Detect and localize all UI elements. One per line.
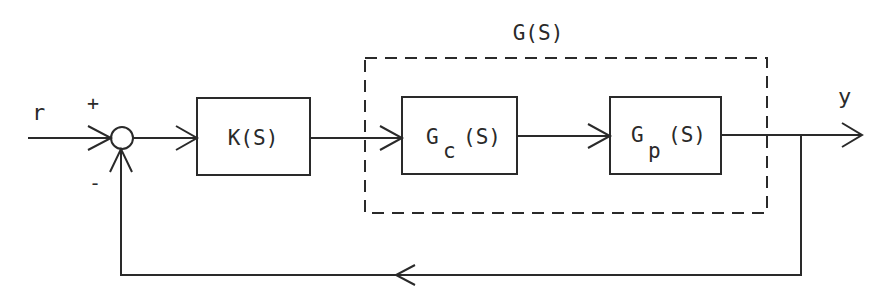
plus-sign: +: [87, 91, 99, 115]
compensator-label-arg: (S): [463, 125, 501, 149]
output-signal-y: y: [721, 84, 862, 147]
edge-controller-to-compensator: [310, 126, 402, 150]
input-label: r: [32, 100, 45, 125]
edge-junction-to-controller: [133, 126, 197, 150]
controller-block: K(S): [197, 98, 310, 175]
edge-compensator-to-plant: [517, 124, 610, 148]
compensator-label-main: G: [426, 125, 439, 149]
plant-label-main: G: [631, 123, 644, 147]
plant-label-arg: (S): [668, 123, 706, 147]
plant-label-sub: p: [648, 139, 661, 163]
plant-block: G p (S): [610, 97, 721, 174]
compensator-label-sub: c: [443, 139, 456, 163]
block-diagram-canvas: r + - K(S) G(S) G c (S) G p: [0, 0, 891, 304]
plant-group-box: G(S): [365, 21, 767, 213]
group-label: G(S): [513, 21, 564, 45]
minus-sign: -: [89, 171, 101, 195]
summing-junction: + -: [87, 91, 133, 195]
controller-label: K(S): [228, 126, 279, 150]
compensator-block: G c (S): [402, 97, 517, 174]
output-label: y: [838, 84, 851, 109]
